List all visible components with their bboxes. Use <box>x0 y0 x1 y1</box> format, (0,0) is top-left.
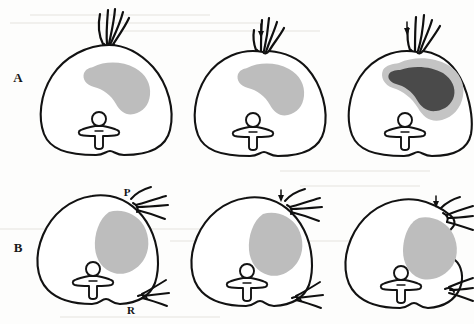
down-arrow-icon <box>278 190 284 202</box>
panel-b2 <box>191 189 323 308</box>
panel-b1: P R <box>37 186 169 316</box>
strand-tuft-icon <box>407 15 440 54</box>
panel-a2 <box>195 18 326 156</box>
down-arrow-icon <box>258 24 264 38</box>
figure-container: A <box>0 0 474 324</box>
row-label-b: B <box>14 240 23 255</box>
body-outline <box>41 45 172 155</box>
panel-a3 <box>349 15 472 156</box>
marker-label-r: R <box>127 304 136 316</box>
panel-b3 <box>345 196 473 308</box>
marker-label-p: P <box>124 186 131 198</box>
row-label-a: A <box>13 70 23 85</box>
down-arrow-icon <box>404 22 410 35</box>
anatomical-figure-svg: A <box>0 0 474 324</box>
